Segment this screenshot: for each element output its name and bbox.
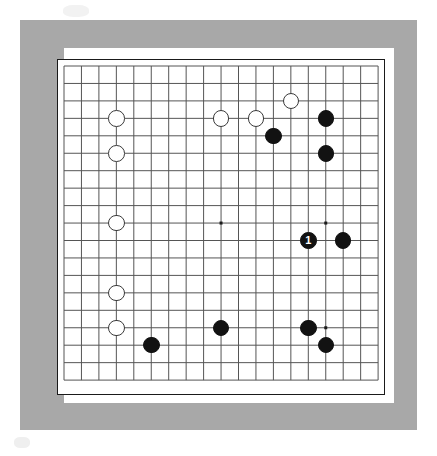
go-board[interactable]: 1 — [57, 59, 386, 396]
go-stone-white[interactable] — [108, 110, 125, 127]
scan-artifact-top — [63, 5, 89, 17]
go-stone-white[interactable] — [108, 215, 125, 232]
go-stone-white[interactable] — [283, 93, 300, 110]
go-stone-white[interactable] — [213, 110, 230, 127]
go-stone-black[interactable] — [143, 337, 160, 354]
scan-artifact-bottom — [14, 437, 30, 448]
go-stone-black[interactable] — [300, 320, 317, 337]
go-stone-black[interactable] — [335, 232, 352, 249]
go-stone-move-number: 1 — [301, 233, 316, 248]
go-stone-numbered[interactable]: 1 — [300, 232, 317, 249]
go-diagram-page: 1 — [0, 0, 437, 456]
go-stone-black[interactable] — [318, 110, 335, 127]
go-stone-black[interactable] — [265, 128, 282, 145]
go-stone-white[interactable] — [108, 145, 125, 162]
go-stone-white[interactable] — [108, 320, 125, 337]
go-stone-black[interactable] — [318, 145, 335, 162]
go-stone-white[interactable] — [108, 285, 125, 302]
go-stone-white[interactable] — [248, 110, 265, 127]
